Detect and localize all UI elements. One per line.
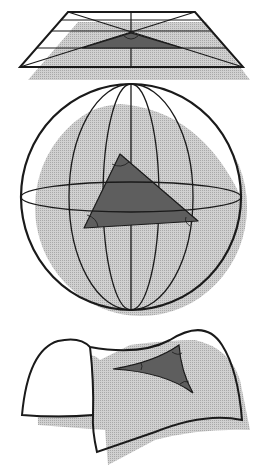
geometry-diagram <box>0 0 268 471</box>
saddle-front-fold <box>22 339 93 415</box>
saddle-panel <box>22 330 250 465</box>
sphere-panel <box>21 84 247 316</box>
flat-plane-panel <box>20 12 250 80</box>
